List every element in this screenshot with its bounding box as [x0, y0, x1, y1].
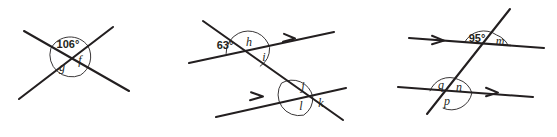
figure-2-arrow-marker-lower: [250, 92, 263, 100]
figure-2-angle-label-i: i: [262, 50, 265, 64]
figure-2-transversal-parallels: 63° h i j k l: [186, 0, 376, 137]
figure-2-angle-value-63: 63°: [217, 39, 234, 51]
figure-3-angle-label-n: n: [456, 80, 462, 94]
figure-3-angle-label-m: m: [496, 34, 505, 48]
figure-2-parallel-line-lower: [216, 88, 346, 117]
figure-1-angle-value-106: 106°: [57, 38, 80, 50]
geometry-diagram-board: 106° f g 63° h i j k l: [0, 0, 557, 137]
figure-3-angle-value-95: 95°: [469, 32, 486, 44]
figure-3-transversal-parallels: 95° m n p q: [376, 0, 557, 137]
figure-2-arc-k: [304, 97, 313, 116]
figure-3-angle-label-p: p: [443, 94, 450, 108]
figure-3-transversal-line: [427, 9, 510, 114]
figure-2-angle-label-k: k: [318, 96, 324, 110]
figure-1-crossed-lines: 106° f g: [0, 0, 186, 137]
figure-1-angle-label-g: g: [59, 60, 65, 74]
figure-2-angle-label-l: l: [299, 99, 303, 113]
figure-2-angle-label-h: h: [246, 35, 252, 49]
figure-3-parallel-line-lower: [398, 87, 533, 97]
figure-2-arc-h: [238, 31, 269, 48]
figure-3-angle-label-q: q: [438, 78, 444, 92]
